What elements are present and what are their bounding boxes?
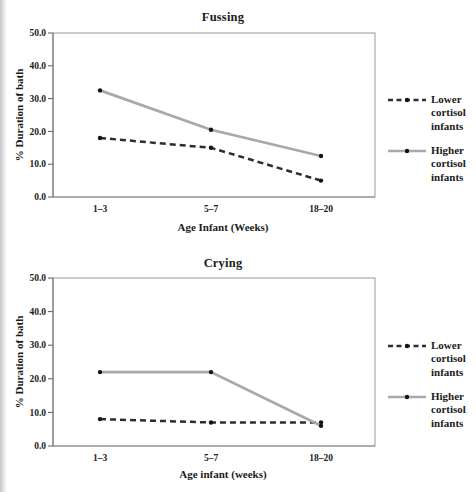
legend-label: Lower cortisol infants — [431, 339, 476, 379]
y-axis-label: % Duration of bath — [13, 69, 25, 162]
x-tick-label: 18–20 — [309, 204, 333, 214]
x-tick-label: 5–7 — [204, 204, 218, 214]
svg-text:50.0: 50.0 — [29, 273, 46, 283]
x-tick-label: 1–3 — [93, 204, 107, 214]
svg-text:20.0: 20.0 — [29, 374, 46, 384]
chart-section-fussing: 50.040.030.020.010.00.0 Fussing % Durati… — [0, 0, 476, 246]
dashed-line-sample-icon — [388, 340, 426, 352]
legend-item-higher-cortisol: Higher cortisol infants — [388, 390, 476, 430]
svg-text:40.0: 40.0 — [29, 307, 46, 317]
legend: Lower cortisol infants Higher cortisol i… — [388, 0, 476, 246]
figure-page: 50.040.030.020.010.00.0 Fussing % Durati… — [0, 0, 476, 492]
svg-text:10.0: 10.0 — [29, 159, 46, 169]
svg-text:40.0: 40.0 — [29, 61, 46, 71]
dashed-line-sample-icon — [388, 94, 426, 106]
x-axis-label: Age Infant (Weeks) — [53, 221, 393, 233]
svg-text:30.0: 30.0 — [29, 340, 46, 350]
svg-text:30.0: 30.0 — [29, 94, 46, 104]
chart-title: Crying — [53, 256, 393, 271]
legend-label: Higher cortisol infants — [431, 144, 476, 184]
svg-text:50.0: 50.0 — [29, 28, 46, 38]
legend-item-lower-cortisol: Lower cortisol infants — [388, 93, 476, 133]
y-axis-label: % Duration of bath — [13, 316, 25, 409]
x-tick-label: 5–7 — [204, 453, 218, 463]
legend-item-higher-cortisol: Higher cortisol infants — [388, 144, 476, 184]
svg-text:0.0: 0.0 — [34, 441, 46, 451]
legend-label: Lower cortisol infants — [431, 93, 476, 133]
legend: Lower cortisol infants Higher cortisol i… — [388, 246, 476, 492]
solid-line-sample-icon — [388, 145, 426, 157]
chart-section-crying: 50.040.030.020.010.00.0 Crying % Duratio… — [0, 246, 476, 492]
svg-text:10.0: 10.0 — [29, 408, 46, 418]
x-tick-label: 18–20 — [309, 453, 333, 463]
svg-text:20.0: 20.0 — [29, 127, 46, 137]
legend-item-lower-cortisol: Lower cortisol infants — [388, 339, 476, 379]
x-tick-label: 1–3 — [93, 453, 107, 463]
svg-text:0.0: 0.0 — [34, 192, 46, 202]
legend-label: Higher cortisol infants — [431, 390, 476, 430]
x-axis-label: Age infant (weeks) — [53, 468, 393, 480]
chart-title: Fussing — [53, 10, 393, 25]
solid-line-sample-icon — [388, 391, 426, 403]
